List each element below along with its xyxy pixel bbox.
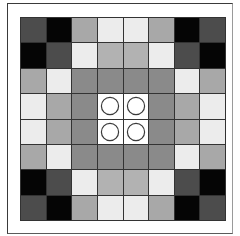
board-cell-r2-c7[interactable]	[200, 69, 225, 93]
board-cell-r5-c1[interactable]	[47, 145, 72, 169]
board-cell-r3-c1[interactable]	[47, 94, 72, 118]
board-cell-r5-c4[interactable]	[124, 145, 149, 169]
board-cell-r7-c0[interactable]	[21, 196, 46, 220]
board-cell-r4-c4[interactable]	[124, 120, 149, 144]
board-cell-r0-c7[interactable]	[200, 18, 225, 42]
board-cell-r1-c0[interactable]	[21, 43, 46, 67]
board-cell-r4-c2[interactable]	[72, 120, 97, 144]
board-cell-r0-c2[interactable]	[72, 18, 97, 42]
board-cell-r7-c1[interactable]	[47, 196, 72, 220]
board-cell-r6-c0[interactable]	[21, 170, 46, 194]
board-cell-r5-c6[interactable]	[175, 145, 200, 169]
board-cell-r6-c1[interactable]	[47, 170, 72, 194]
board-cell-r7-c6[interactable]	[175, 196, 200, 220]
board-cell-r6-c6[interactable]	[175, 170, 200, 194]
board-cell-r7-c4[interactable]	[124, 196, 149, 220]
board-cell-r7-c3[interactable]	[98, 196, 123, 220]
board-cell-r7-c7[interactable]	[200, 196, 225, 220]
board-cell-r2-c0[interactable]	[21, 69, 46, 93]
board-cell-r3-c7[interactable]	[200, 94, 225, 118]
board-cell-r4-c7[interactable]	[200, 120, 225, 144]
board-cell-r5-c7[interactable]	[200, 145, 225, 169]
board-cell-r3-c4[interactable]	[124, 94, 149, 118]
board-cell-r4-c0[interactable]	[21, 120, 46, 144]
board-cell-r6-c3[interactable]	[98, 170, 123, 194]
board-cell-r3-c3[interactable]	[98, 94, 123, 118]
board-cell-r3-c5[interactable]	[149, 94, 174, 118]
circle-piece-icon[interactable]	[126, 122, 146, 142]
board-cell-r7-c5[interactable]	[149, 196, 174, 220]
board-cell-r2-c3[interactable]	[98, 69, 123, 93]
board-cell-r6-c7[interactable]	[200, 170, 225, 194]
circle-piece-icon[interactable]	[126, 96, 146, 116]
board-cell-r4-c5[interactable]	[149, 120, 174, 144]
board-cell-r1-c5[interactable]	[149, 43, 174, 67]
circle-piece-icon[interactable]	[100, 96, 120, 116]
board-cell-r1-c7[interactable]	[200, 43, 225, 67]
board-cell-r0-c3[interactable]	[98, 18, 123, 42]
board-cell-r3-c0[interactable]	[21, 94, 46, 118]
board-cell-r5-c3[interactable]	[98, 145, 123, 169]
board-cell-r5-c2[interactable]	[72, 145, 97, 169]
board-cell-r0-c4[interactable]	[124, 18, 149, 42]
board-cell-r0-c1[interactable]	[47, 18, 72, 42]
board-cell-r5-c0[interactable]	[21, 145, 46, 169]
board-cell-r6-c4[interactable]	[124, 170, 149, 194]
board-cell-r6-c2[interactable]	[72, 170, 97, 194]
board-cell-r2-c1[interactable]	[47, 69, 72, 93]
circle-piece-icon[interactable]	[100, 122, 120, 142]
board-cell-r2-c6[interactable]	[175, 69, 200, 93]
board-cell-r4-c1[interactable]	[47, 120, 72, 144]
board-cell-r4-c3[interactable]	[98, 120, 123, 144]
board-cell-r6-c5[interactable]	[149, 170, 174, 194]
board-cell-r2-c4[interactable]	[124, 69, 149, 93]
board-cell-r0-c6[interactable]	[175, 18, 200, 42]
board-cell-r3-c2[interactable]	[72, 94, 97, 118]
board-cell-r0-c5[interactable]	[149, 18, 174, 42]
board-cell-r1-c2[interactable]	[72, 43, 97, 67]
board-cell-r3-c6[interactable]	[175, 94, 200, 118]
board-cell-r1-c4[interactable]	[124, 43, 149, 67]
board-cell-r0-c0[interactable]	[21, 18, 46, 42]
board-cell-r1-c1[interactable]	[47, 43, 72, 67]
board-cell-r4-c6[interactable]	[175, 120, 200, 144]
game-board[interactable]	[20, 17, 226, 221]
board-cell-r1-c6[interactable]	[175, 43, 200, 67]
board-cell-r2-c2[interactable]	[72, 69, 97, 93]
board-cell-r5-c5[interactable]	[149, 145, 174, 169]
board-cell-r2-c5[interactable]	[149, 69, 174, 93]
board-cell-r1-c3[interactable]	[98, 43, 123, 67]
board-cell-r7-c2[interactable]	[72, 196, 97, 220]
